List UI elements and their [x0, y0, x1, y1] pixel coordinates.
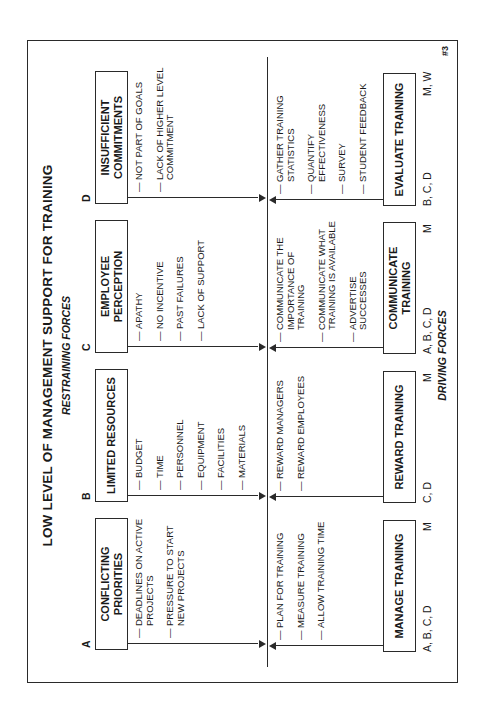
list-item: REWARD MANAGERS: [275, 371, 286, 491]
arrow-down-icon: [259, 343, 266, 351]
list-item: TIME: [155, 370, 166, 490]
arrow-down-icon: [259, 640, 266, 648]
owner-manage: M: [421, 522, 433, 531]
driving-items-evaluate: GATHER TRAINING STATISTICS QUANTIFY EFFE…: [275, 69, 378, 194]
list-item: EQUIPMENT: [196, 370, 207, 490]
arrow-up-icon: [269, 642, 276, 650]
driving-arrow-reward: [276, 496, 383, 497]
restraining-arrow-d: [128, 197, 258, 198]
restraining-box-a: CONFLICTING PRIORITIES: [95, 518, 128, 650]
restraining-box-b: LIMITED RESOURCES: [95, 369, 128, 502]
restraining-letter-a: A: [80, 640, 92, 648]
page-number: #3: [440, 46, 450, 56]
list-item: NOT PART OF GOALS: [134, 67, 145, 192]
restraining-letter-c: C: [80, 343, 92, 351]
diagram-title: LOW LEVEL OF MANAGEMENT SUPPORT FOR TRAI…: [40, 0, 55, 711]
restraining-arrow-a: [128, 643, 258, 644]
restraining-arrow-c: [128, 346, 258, 347]
driving-box-reward-training: REWARD TRAINING: [383, 371, 416, 503]
list-item: REWARD EMPLOYEES: [296, 371, 307, 491]
addresses-reward: C, D: [421, 482, 433, 503]
list-item: LACK OF SUPPORT: [196, 221, 207, 341]
driving-items-reward: REWARD MANAGERS REWARD EMPLOYEES: [275, 371, 316, 491]
list-item: ADVERTISE SUCCESSES: [348, 217, 369, 342]
driving-arrow-manage: [276, 645, 383, 646]
list-item: APATHY: [134, 221, 145, 341]
driving-items-manage: PLAN FOR TRAINING MEASURE TRAINING ALLOW…: [275, 520, 337, 640]
list-item: MATERIALS: [237, 370, 248, 490]
restraining-letter-d: D: [80, 194, 92, 202]
restraining-letter-b: B: [80, 492, 92, 500]
list-item: NO INCENTIVE: [155, 221, 166, 341]
arrow-up-icon: [269, 493, 276, 501]
driving-arrow-evaluate: [276, 199, 383, 200]
addresses-manage: A, B, C, D: [421, 605, 433, 652]
restraining-box-c: EMPLOYEE PERCEPTION: [95, 220, 128, 353]
restraining-box-d: INSUFFICIENT COMMITMENTS: [95, 71, 128, 204]
driving-arrow-communicate: [276, 347, 383, 348]
force-field-diagram: LOW LEVEL OF MANAGEMENT SUPPORT FOR TRAI…: [0, 0, 486, 711]
driving-items-communicate: COMMUNICATE THE IMPORTANCE OF TRAINING C…: [275, 217, 379, 342]
arrow-down-icon: [259, 194, 266, 202]
list-item: QUANTIFY EFFECTIVENESS: [306, 69, 327, 194]
list-item: PERSONNEL: [175, 370, 186, 490]
restraining-items-d: NOT PART OF GOALS LACK OF HIGHER LEVEL C…: [134, 67, 186, 192]
list-item: BUDGET: [134, 370, 145, 490]
list-item: STUDENT FEEDBACK: [358, 69, 369, 194]
addresses-evaluate: B, C, D: [421, 172, 433, 206]
list-item: PAST FAILURES: [175, 221, 186, 341]
owner-reward: M: [421, 373, 433, 382]
arrow-up-icon: [269, 344, 276, 352]
arrow-up-icon: [269, 196, 276, 204]
arrow-down-icon: [259, 492, 266, 500]
list-item: PLAN FOR TRAINING: [275, 520, 286, 640]
addresses-communicate: A, B, C, D: [421, 307, 433, 354]
list-item: LACK OF HIGHER LEVEL COMMITMENT: [155, 67, 176, 192]
owner-communicate: M: [421, 224, 433, 233]
restraining-arrow-b: [128, 495, 258, 496]
center-line: [267, 57, 268, 667]
restraining-items-b: BUDGET TIME PERSONNEL EQUIPMENT FACILITI…: [134, 370, 257, 490]
restraining-forces-label: RESTRAINING FORCES: [60, 0, 72, 711]
driving-box-communicate-training: COMMUNICATE TRAINING: [383, 222, 416, 354]
list-item: DEADLINES ON ACTIVE PROJECTS: [134, 518, 155, 638]
owner-evaluate: M, W: [421, 72, 433, 97]
restraining-items-c: APATHY NO INCENTIVE PAST FAILURES LACK O…: [134, 221, 216, 341]
driving-box-evaluate-training: EVALUATE TRAINING: [383, 73, 416, 206]
list-item: GATHER TRAINING STATISTICS: [275, 69, 296, 194]
list-item: COMMUNICATE THE IMPORTANCE OF TRAINING: [275, 217, 307, 342]
driving-forces-label: DRIVING FORCES: [436, 0, 448, 711]
list-item: FACILITIES: [216, 370, 227, 490]
list-item: PRESSURE TO START NEW PROJECTS: [165, 518, 186, 638]
restraining-items-a: DEADLINES ON ACTIVE PROJECTS PRESSURE TO…: [134, 518, 196, 638]
list-item: ALLOW TRAINING TIME: [316, 520, 327, 640]
list-item: COMMUNICATE WHAT TRAINING IS AVAILABLE: [317, 217, 338, 342]
driving-box-manage-training: MANAGE TRAINING: [383, 520, 416, 652]
list-item: SURVEY: [337, 69, 348, 194]
list-item: MEASURE TRAINING: [296, 520, 307, 640]
